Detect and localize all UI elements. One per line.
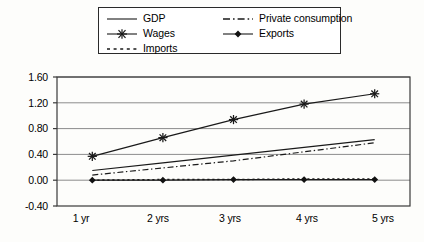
x-axis-tick-3yrs: 3 yrs <box>200 212 260 224</box>
x-axis-tick-5yrs: 5 yrs <box>353 212 413 224</box>
chart-screenshot: GDP Wages <box>0 0 424 242</box>
chart-svg <box>0 0 424 242</box>
y-axis-tick-neg040: -0.40 <box>0 200 48 212</box>
x-axis-tick-4yrs: 4 yrs <box>277 212 337 224</box>
chart-plot-area: 1.60 1.20 0.80 0.40 0.00 -0.40 1 yr 2 yr… <box>0 0 424 242</box>
y-axis-tick-040: 0.40 <box>2 148 48 160</box>
y-axis-tick-000: 0.00 <box>2 174 48 186</box>
y-axis-tick-080: 0.80 <box>2 122 48 134</box>
y-axis-tick-160: 1.60 <box>2 71 48 83</box>
x-axis-tick-2yrs: 2 yrs <box>128 212 188 224</box>
y-axis-tick-120: 1.20 <box>2 97 48 109</box>
x-axis-tick-1yr: 1 yr <box>51 212 111 224</box>
